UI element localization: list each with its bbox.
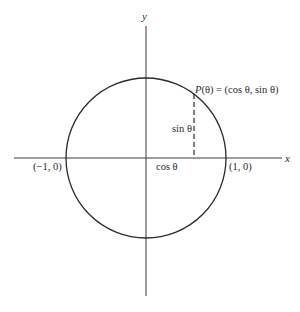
point-label-rest: (θ) = (cos θ, sin θ) xyxy=(201,84,279,96)
y-axis-label: y xyxy=(141,10,147,22)
point-label: P(θ) = (cos θ, sin θ) xyxy=(194,84,279,96)
cos-label: cos θ xyxy=(156,161,178,172)
unit-circle-diagram: x y P(θ) = (cos θ, sin θ) sin θ cos θ (−… xyxy=(0,0,300,312)
right-intercept-label: (1, 0) xyxy=(229,161,252,173)
x-axis-label: x xyxy=(284,152,290,164)
sin-label: sin θ xyxy=(172,123,192,134)
left-intercept-label: (−1, 0) xyxy=(33,161,62,173)
